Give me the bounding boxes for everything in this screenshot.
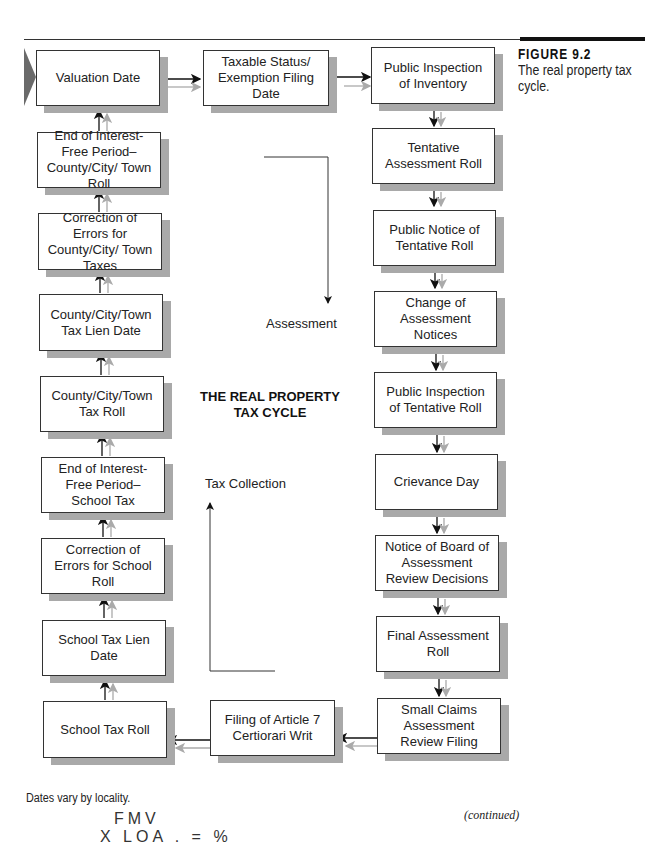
node-board-review-decisions: Notice of Board of Assessment Review Dec… [375, 535, 499, 591]
node-tentative-roll: Tentative Assessment Roll [372, 128, 495, 184]
handwriting-line1: FMV [100, 810, 232, 828]
node-small-claims: Small Claims Assessment Review Filing [377, 698, 501, 754]
node-taxable-status: Taxable Status/ Exemption Filing Date [203, 50, 329, 106]
node-public-inspection-tentative: Public Inspection of Tentative Roll [374, 372, 497, 428]
node-public-notice: Public Notice of Tentative Roll [373, 210, 496, 266]
diagram-title-line1: THE REAL PROPERTY [200, 389, 340, 405]
handwriting-line2: X LOA . = % [100, 828, 232, 846]
node-end-interest-county: End of Interest-Free Period–County/City/… [37, 132, 161, 188]
node-school-tax-roll: School Tax Roll [43, 701, 167, 758]
node-school-lien-date: School Tax Lien Date [42, 620, 166, 676]
continued-note: (continued) [464, 808, 519, 823]
diagram-title: THE REAL PROPERTY TAX CYCLE [200, 389, 340, 421]
footnote: Dates vary by locality. [26, 791, 130, 805]
diagram-title-line2: TAX CYCLE [200, 405, 340, 421]
node-county-lien-date: County/City/Town Tax Lien Date [39, 294, 163, 351]
node-end-interest-school: End of Interest-Free Period–School Tax [41, 457, 165, 513]
node-public-inspection-inventory: Public Inspection of Inventory [371, 47, 495, 104]
node-county-tax-roll: County/City/Town Tax Roll [40, 376, 164, 432]
node-change-notices: Change of Assessment Notices [374, 291, 497, 347]
node-correction-school: Correction of Errors for School Roll [41, 538, 165, 594]
node-grievance-day: Crievance Day [375, 454, 498, 510]
assessment-phase-label: Assessment [266, 316, 337, 331]
node-final-roll: Final Assessment Roll [376, 616, 500, 672]
node-valuation-date: Valuation Date [36, 50, 160, 106]
handwritten-annotation: FMV X LOA . = % [100, 810, 232, 846]
node-correction-county: Correction of Errors for County/City/ To… [38, 213, 162, 270]
node-article7-writ: Filing of Article 7 Certiorari Writ [210, 700, 335, 756]
tax-collection-phase-label: Tax Collection [205, 476, 286, 491]
